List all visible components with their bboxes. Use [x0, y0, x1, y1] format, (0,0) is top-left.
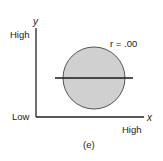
- correlation-label: r = .00: [110, 38, 137, 49]
- y-axis-low-label: Low: [12, 111, 30, 122]
- scatter-diagram: y High Low x High r = .00 (e): [0, 0, 163, 161]
- panel-label: (e): [83, 139, 95, 150]
- x-axis-high-label: High: [122, 124, 142, 135]
- x-axis-name: x: [146, 112, 153, 123]
- y-axis-high-label: High: [10, 29, 30, 40]
- y-axis-name: y: [32, 16, 39, 27]
